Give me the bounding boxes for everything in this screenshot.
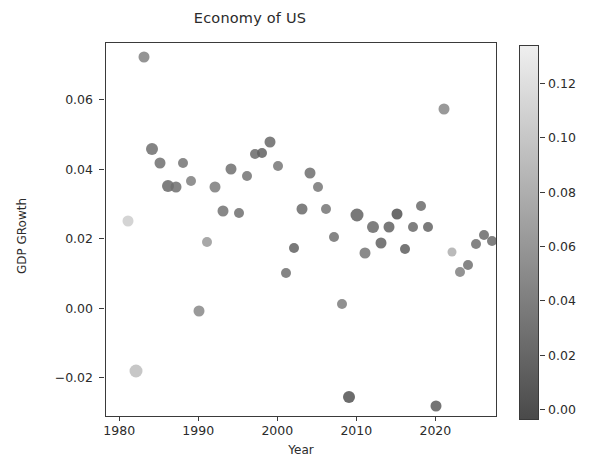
page-title: Economy of US [0,10,500,26]
y-tick-label: 0.02 [0,231,93,246]
scatter-point [463,260,473,270]
scatter-point [202,237,212,247]
scatter-point [178,158,188,168]
scatter-point [225,163,236,174]
plot-axes [105,42,497,417]
scatter-point [487,236,496,246]
colorbar-tick-mark [540,409,545,410]
scatter-point [257,148,267,158]
colorbar-tick-mark [540,246,545,247]
colorbar [519,45,539,420]
y-tick-mark [99,169,104,170]
x-tick-mark [435,417,436,421]
scatter-point [273,161,283,171]
scatter-point [416,201,426,211]
colorbar-tick-mark [540,83,545,84]
scatter-point [304,168,315,179]
scatter-point [376,238,387,249]
scatter-point [170,182,181,193]
scatter-point [130,364,143,377]
colorbar-tick-mark [540,192,545,193]
x-tick-label: 1980 [89,423,149,438]
colorbar-tick-mark [540,355,545,356]
colorbar-tick-label: 0.04 [548,293,576,308]
scatter-point [289,243,299,253]
scatter-point [337,299,347,309]
scatter-point [210,182,221,193]
scatter-point [391,208,402,219]
scatter-point [471,239,481,249]
x-axis-label: Year [105,443,497,457]
colorbar-tick-label: 0.08 [548,184,576,199]
scatter-point [146,143,158,155]
scatter-point [138,52,149,63]
x-tick-label: 2010 [326,423,386,438]
y-tick-label: 0.00 [0,300,93,315]
scatter-point [297,204,308,215]
x-tick-mark [277,417,278,421]
scatter-point [186,176,196,186]
colorbar-tick-label: 0.02 [548,347,576,362]
scatter-point [242,171,252,181]
x-tick-mark [198,417,199,421]
scatter-point [123,215,134,226]
y-tick-mark [99,377,104,378]
scatter-points-layer [106,43,496,416]
x-tick-label: 2020 [405,423,465,438]
scatter-point [321,204,331,214]
colorbar-tick-label: 0.00 [548,402,576,417]
y-tick-mark [99,238,104,239]
colorbar-tick-label: 0.10 [548,130,576,145]
scatter-point [154,158,165,169]
colorbar-tick-label: 0.06 [548,239,576,254]
scatter-point [217,205,228,216]
scatter-point [351,208,364,221]
scatter-point [313,182,323,192]
scatter-point [383,222,394,233]
scatter-point [408,222,418,232]
colorbar-tick-mark [540,300,545,301]
y-tick-label: 0.06 [0,92,93,107]
x-tick-mark [119,417,120,421]
scatter-point [234,208,244,218]
colorbar-tick-mark [540,137,545,138]
matplotlib-figure: Economy of US 19801990200020102020 −0.02… [0,0,608,473]
scatter-point [400,244,410,254]
scatter-point [194,306,205,317]
scatter-point [343,391,355,403]
scatter-point [448,248,457,257]
scatter-point [281,268,291,278]
x-tick-label: 2000 [247,423,307,438]
y-tick-label: −0.02 [0,370,93,385]
x-tick-label: 1990 [168,423,228,438]
scatter-point [431,401,442,412]
colorbar-tick-label: 0.12 [548,76,576,91]
scatter-point [367,221,379,233]
scatter-point [265,136,276,147]
scatter-point [360,248,371,259]
y-tick-label: 0.04 [0,161,93,176]
scatter-point [423,222,433,232]
x-tick-mark [356,417,357,421]
scatter-point [329,232,339,242]
scatter-point [439,104,450,115]
y-tick-mark [99,99,104,100]
y-axis-label: GDP GRowth [15,156,29,316]
y-tick-mark [99,308,104,309]
